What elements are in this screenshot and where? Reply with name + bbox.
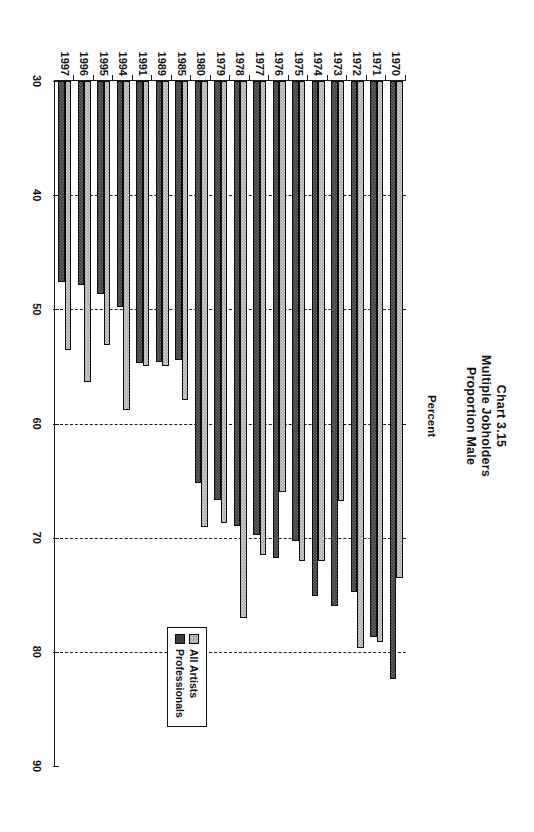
bar-1996-all-artists: [84, 81, 91, 382]
bar-1978-professionals: [234, 81, 241, 526]
chart-legend: All Artists Professionals: [167, 627, 207, 727]
y-axis-tick-label: 1996: [78, 16, 90, 76]
y-axis-tick-label: 1985: [176, 16, 188, 76]
x-axis-tick: [53, 309, 59, 310]
y-axis-tick: [93, 75, 94, 81]
bar-1991-professionals: [136, 81, 143, 363]
x-axis-tick: [53, 195, 59, 196]
bar-1976-all-artists: [279, 81, 286, 492]
bar-1977-all-artists: [260, 81, 267, 555]
y-axis-tick-label: 1991: [137, 16, 149, 76]
x-axis-tick: [53, 81, 59, 82]
bar-1997-professionals: [58, 81, 65, 282]
bar-1973-professionals: [331, 81, 338, 606]
bar-1977-professionals: [253, 81, 260, 535]
bar-1970-all-artists: [396, 81, 403, 578]
y-axis-tick-label: 1995: [98, 16, 110, 76]
x-axis-tick: [53, 652, 59, 653]
chart-title-line-3: Proportion Male: [463, 0, 478, 832]
y-axis-tick-label: 1975: [293, 16, 305, 76]
x-axis-tick-label: 80: [31, 646, 43, 658]
y-axis-tick: [269, 75, 270, 81]
y-axis-tick: [386, 75, 387, 81]
bar-1975-professionals: [292, 81, 299, 541]
x-axis-tick: [53, 538, 59, 539]
x-gridline: [55, 652, 406, 653]
y-axis-tick-label: 1972: [351, 16, 363, 76]
y-axis-tick: [113, 75, 114, 81]
x-axis-tick-label: 60: [31, 417, 43, 429]
bar-1978-all-artists: [240, 81, 247, 618]
bar-1989-all-artists: [162, 81, 169, 366]
plot-area: 3040506070809019701971197219731974197519…: [54, 80, 406, 766]
bar-1980-professionals: [195, 81, 202, 483]
y-axis-tick: [152, 75, 153, 81]
y-axis-tick: [191, 75, 192, 81]
y-axis-tick-label: 1973: [332, 16, 344, 76]
bar-1991-all-artists: [143, 81, 150, 366]
bar-1972-all-artists: [357, 81, 364, 648]
legend-entry-professionals: Professionals: [173, 634, 187, 718]
y-axis-tick: [171, 75, 172, 81]
x-axis-title: Percent: [426, 0, 438, 832]
bar-1974-professionals: [312, 81, 319, 596]
chart-title-line-1: Chart 3.15: [493, 0, 508, 832]
legend-entry-all-artists: All Artists: [187, 634, 201, 718]
y-axis-tick: [132, 75, 133, 81]
bar-1970-professionals: [390, 81, 397, 679]
bar-1973-all-artists: [338, 81, 345, 501]
x-axis-tick-label: 50: [31, 303, 43, 315]
y-axis-tick: [74, 75, 75, 81]
rotated-figure-wrapper: Chart 3.15 Multiple Jobholders Proportio…: [0, 0, 534, 832]
chart-figure: Chart 3.15 Multiple Jobholders Proportio…: [0, 0, 534, 832]
legend-swatch-professionals: [175, 634, 185, 644]
y-axis-tick: [405, 75, 406, 81]
y-axis-tick-label: 1994: [117, 16, 129, 76]
bar-1972-professionals: [351, 81, 358, 592]
legend-label-professionals: Professionals: [173, 649, 187, 718]
y-axis-tick: [288, 75, 289, 81]
x-axis-tick-label: 70: [31, 532, 43, 544]
y-axis-tick-label: 1989: [156, 16, 168, 76]
bar-1971-professionals: [370, 81, 377, 637]
plot-inner: [55, 81, 406, 766]
y-axis-tick-label: 1980: [195, 16, 207, 76]
y-axis-tick-label: 1979: [215, 16, 227, 76]
y-axis-tick-label: 1997: [59, 16, 71, 76]
chart-title-line-2: Multiple Jobholders: [478, 0, 493, 832]
x-axis-tick-label: 40: [31, 189, 43, 201]
x-axis-tick-label: 30: [31, 75, 43, 87]
bar-1979-all-artists: [221, 81, 228, 523]
bar-1985-all-artists: [182, 81, 189, 400]
y-axis-tick: [249, 75, 250, 81]
y-axis-tick: [347, 75, 348, 81]
bar-1974-all-artists: [318, 81, 325, 561]
y-axis-tick-label: 1976: [273, 16, 285, 76]
y-axis-tick: [327, 75, 328, 81]
bar-1976-professionals: [273, 81, 280, 558]
bar-1995-professionals: [97, 81, 104, 294]
bar-1979-professionals: [214, 81, 221, 500]
x-axis-tick: [53, 766, 59, 767]
y-axis-tick-label: 1974: [312, 16, 324, 76]
y-axis-tick-label: 1978: [234, 16, 246, 76]
bar-1994-professionals: [117, 81, 124, 307]
legend-label-all-artists: All Artists: [187, 649, 201, 698]
y-axis-tick-label: 1970: [390, 16, 402, 76]
y-axis-tick: [366, 75, 367, 81]
bar-1975-all-artists: [299, 81, 306, 561]
bar-1971-all-artists: [377, 81, 384, 642]
y-axis-tick: [210, 75, 211, 81]
bar-1996-professionals: [78, 81, 85, 285]
y-axis-tick: [230, 75, 231, 81]
y-axis-tick-label: 1977: [254, 16, 266, 76]
bar-1985-professionals: [175, 81, 182, 360]
bar-1997-all-artists: [65, 81, 72, 350]
bar-1994-all-artists: [123, 81, 130, 410]
chart-title: Chart 3.15 Multiple Jobholders Proportio…: [463, 0, 508, 832]
y-axis-tick: [308, 75, 309, 81]
bar-1989-professionals: [156, 81, 163, 362]
bar-1995-all-artists: [104, 81, 111, 345]
bar-1980-all-artists: [201, 81, 208, 527]
x-axis-tick: [53, 424, 59, 425]
